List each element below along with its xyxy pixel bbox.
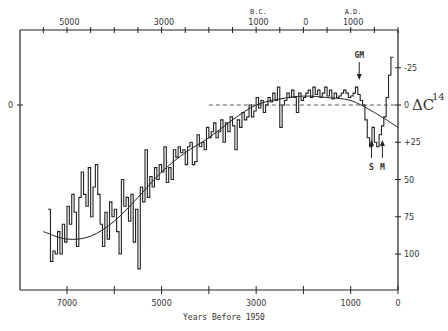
y-axis-title: ΔC [412, 96, 434, 114]
bottom-axis-ticks: 70005000300010000 [57, 286, 401, 308]
left-axis-ticks: 0 [8, 101, 23, 110]
top-tick-label: 0 [303, 18, 308, 27]
x-tick-label: 5000 [151, 299, 171, 308]
x-tick-label: 7000 [57, 299, 77, 308]
right-tick-label: 0 [404, 101, 409, 110]
annotation-gm: GM [354, 51, 364, 60]
x-axis-title: Years Before 1950 [183, 313, 265, 322]
smoothed-trend-curve [43, 96, 398, 239]
top-tick-label: 5000 [59, 18, 79, 27]
y-axis-title-superscript: 14 [432, 91, 445, 102]
radiocarbon-chart: 500030001000B.C.01000A.D. 70005000300010… [0, 0, 448, 331]
era-label: A.D. [345, 8, 362, 16]
annotations: GMSM [354, 51, 385, 172]
plot-frame [20, 30, 398, 290]
delta-c14-step-series [48, 57, 393, 269]
top-tick-label: 1000 [248, 18, 268, 27]
top-tick-label: 3000 [154, 18, 174, 27]
x-tick-label: 3000 [246, 299, 266, 308]
annotation-m: M [380, 163, 385, 172]
right-tick-label: 100 [404, 250, 419, 259]
top-tick-label: 1000 [343, 18, 363, 27]
era-label: B.C. [250, 8, 267, 16]
x-tick-label: 0 [395, 299, 400, 308]
top-axis-ticks: 500030001000B.C.01000A.D. [43, 8, 398, 33]
right-tick-label: 50 [404, 176, 414, 185]
right-tick-label: 75 [404, 213, 414, 222]
right-tick-label: -25 [404, 64, 417, 73]
annotation-s: S [369, 163, 374, 172]
x-tick-label: 1000 [341, 299, 361, 308]
left-tick-label: 0 [8, 101, 13, 110]
right-axis-ticks: -250+255075100 [395, 64, 421, 259]
right-tick-label: +25 [404, 138, 421, 147]
